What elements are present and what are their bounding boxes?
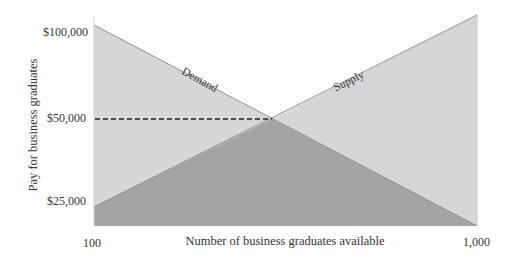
- chart-plot: [0, 0, 512, 271]
- y-tick-25000: $25,000: [47, 194, 86, 209]
- x-tick-100: 100: [83, 236, 101, 251]
- x-tick-1000: 1,000: [463, 235, 490, 250]
- supply-demand-chart: $100,000 $50,000 $25,000 100 1,000 Numbe…: [0, 0, 512, 271]
- y-axis-label: Pay for business graduates: [26, 59, 41, 192]
- y-tick-100000: $100,000: [43, 25, 88, 40]
- y-tick-50000: $50,000: [47, 111, 86, 126]
- x-axis-label: Number of business graduates available: [185, 234, 384, 249]
